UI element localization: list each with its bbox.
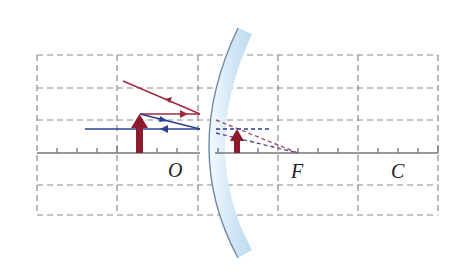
ray-diagram: O F C <box>0 0 476 280</box>
label-focus: F <box>290 160 304 182</box>
label-pole: O <box>168 159 182 181</box>
label-center: C <box>391 160 405 182</box>
arrowhead-icon <box>159 116 168 122</box>
object-arrow <box>131 114 148 153</box>
image-arrow <box>230 129 244 153</box>
convex-mirror <box>209 28 252 258</box>
arrowhead-icon <box>180 110 188 118</box>
arrowhead-icon <box>160 125 168 133</box>
